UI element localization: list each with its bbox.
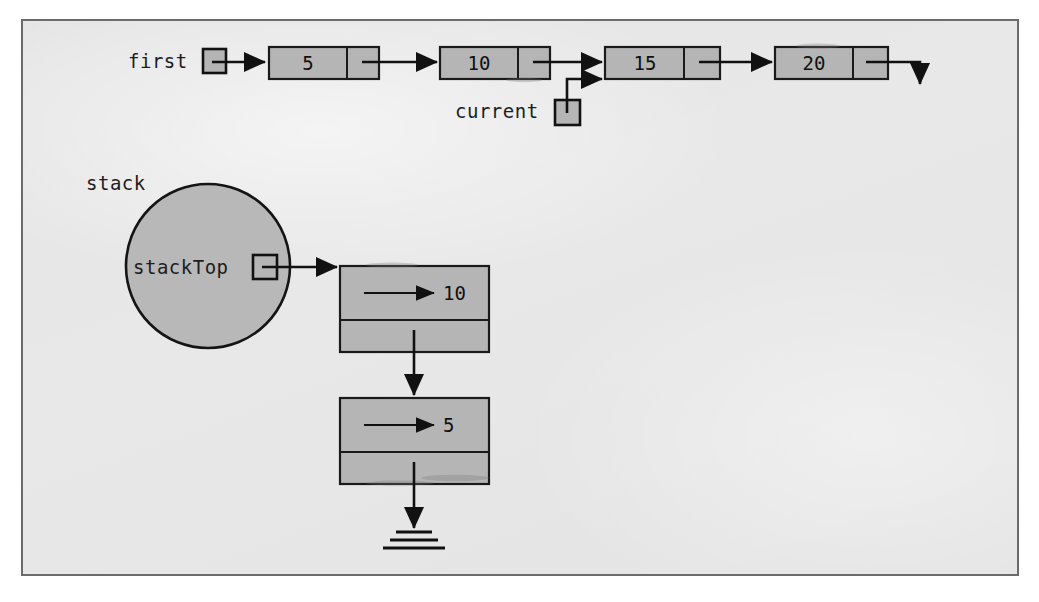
print-smudge-2	[796, 43, 840, 48]
list-node-2-value: 15	[634, 52, 657, 74]
first-pointer-label: first	[128, 50, 188, 72]
current-pointer-label: current	[455, 100, 539, 122]
list-node-3-value: 20	[803, 52, 826, 74]
stack-node-1-value: 5	[443, 414, 454, 436]
figure-canvas: first 5 10 15 20 current	[0, 0, 1039, 602]
print-smudge-5	[421, 475, 489, 481]
stacktop-pointer-label: stackTop	[133, 256, 229, 278]
print-smudge-4	[366, 480, 434, 485]
list-node-0-value: 5	[302, 52, 313, 74]
stack-node-0-value: 10	[443, 282, 466, 304]
linked-list-and-stack-diagram: first 5 10 15 20 current	[0, 0, 1039, 602]
list-node-1-value: 10	[468, 52, 491, 74]
ground-symbol	[383, 532, 445, 548]
print-smudge-1	[506, 78, 542, 82]
stack-object-label: stack	[86, 172, 146, 194]
print-smudge-3	[366, 263, 418, 268]
